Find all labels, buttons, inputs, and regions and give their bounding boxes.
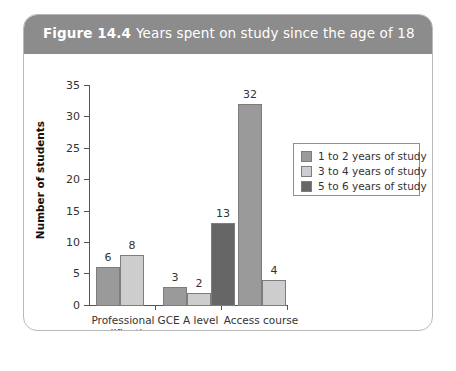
legend-label-3to4: 3 to 4 years of study: [318, 165, 427, 177]
bar-value-gce-5to6: 13: [207, 208, 239, 219]
bar-value-professional-3to4: 8: [118, 240, 146, 251]
y-tick-mark-30: [84, 116, 89, 117]
y-tick-label-15: 15: [40, 206, 80, 217]
bar-gce-1to2: [163, 287, 187, 306]
chart-legend: 1 to 2 years of study 3 to 4 years of st…: [293, 143, 420, 196]
y-axis-line: [89, 85, 90, 305]
bar-access-1to2: [238, 104, 262, 306]
bar-value-gce-3to4: 2: [185, 278, 213, 289]
figure-number: Figure 14.4: [43, 25, 131, 41]
figure-card: Figure 14.4Years spent on study since th…: [23, 14, 433, 331]
y-tick-label-25: 25: [40, 143, 80, 154]
x-tick-label-access: Access course: [220, 314, 302, 327]
bar-value-professional-1to2: 6: [94, 252, 122, 263]
legend-label-5to6: 5 to 6 years of study: [318, 180, 427, 192]
bar-professional-3to4: [120, 255, 144, 306]
x-tick-label-gce: GCE A level: [152, 314, 224, 327]
y-tick-mark-35: [84, 85, 89, 86]
y-tick-label-10: 10: [40, 237, 80, 248]
y-tick-mark-20: [84, 179, 89, 180]
legend-label-1to2: 1 to 2 years of study: [318, 150, 427, 162]
legend-swatch-1to2: [301, 151, 312, 162]
y-tick-mark-15: [84, 211, 89, 212]
legend-swatch-5to6: [301, 181, 312, 192]
y-tick-label-5: 5: [40, 268, 80, 279]
bar-value-access-3to4: 4: [260, 265, 288, 276]
chart-plot-area: Number of students Study type 0 5 10 15 …: [24, 54, 433, 331]
bar-professional-1to2: [96, 267, 120, 306]
y-tick-label-0: 0: [40, 300, 80, 311]
legend-swatch-3to4: [301, 166, 312, 177]
y-tick-mark-10: [84, 242, 89, 243]
figure-title-bar: Figure 14.4Years spent on study since th…: [24, 15, 433, 54]
y-tick-mark-5: [84, 273, 89, 274]
bar-access-3to4: [262, 280, 286, 306]
y-tick-label-35: 35: [40, 80, 80, 91]
bar-gce-3to4: [187, 293, 211, 306]
x-tick-mark-1: [155, 305, 156, 310]
y-tick-label-30: 30: [40, 111, 80, 122]
x-tick-label-gce-line1: GCE A level: [152, 314, 224, 327]
figure-caption: Years spent on study since the age of 18: [136, 25, 415, 41]
bar-value-access-1to2: 32: [234, 89, 266, 100]
bar-gce-5to6: [211, 223, 235, 306]
figure-title: Figure 14.4Years spent on study since th…: [43, 25, 415, 41]
x-tick-label-access-line1: Access course: [220, 314, 302, 327]
y-tick-label-20: 20: [40, 174, 80, 185]
x-tick-label-professional-line2: qualification: [80, 327, 166, 332]
x-tick-mark-3: [287, 305, 288, 310]
y-tick-mark-0: [84, 305, 89, 306]
y-tick-mark-25: [84, 148, 89, 149]
